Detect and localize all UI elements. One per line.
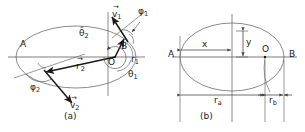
label-phi2: φ2 [30, 83, 40, 93]
label-apoapsis-b: A [168, 50, 174, 59]
vector-arrow-v1-icon: → [113, 4, 119, 11]
velocity-vector-v2 [44, 70, 72, 103]
label-phi1-subscript: 1 [144, 10, 148, 18]
label-radius-rb: rb [269, 96, 277, 106]
label-velocity-v2: → v2 [70, 101, 79, 111]
label-theta2-subscript: 2 [85, 32, 89, 40]
label-phi1: φ1 [138, 7, 148, 17]
vector-arrow-v2-icon: → [71, 95, 77, 102]
label-velocity-v1: → v1 [112, 10, 121, 20]
label-theta2: θ̂2 [79, 29, 89, 39]
label-radius-r1: r1 [131, 55, 139, 65]
figure-two-panel-orbit-geometry: A B O r1 → r2 → v1 → v2 θ1 θ̂2 φ1 φ2 (a) [0, 0, 305, 132]
focus-point-b [264, 56, 266, 58]
label-focus-a: O [108, 58, 115, 67]
label-apoapsis-a: A [20, 40, 26, 49]
figure-vector-graphics [0, 0, 305, 132]
label-y-offset: y [246, 38, 251, 47]
angle-arc-phi1-leader [132, 22, 140, 32]
label-periapsis-b: B [289, 50, 295, 59]
label-theta1: θ1 [128, 70, 138, 80]
panel-b-graphics [172, 14, 297, 122]
caption-panel-a: (a) [64, 112, 77, 121]
label-x-offset: x [202, 40, 207, 49]
label-radius-rb-subscript: b [273, 99, 277, 107]
label-phi2-subscript: 2 [36, 86, 40, 94]
label-radius-r2: → r2 [76, 62, 85, 72]
label-focus-b: O [262, 45, 269, 54]
label-radius-ra: ra [214, 96, 222, 106]
label-radius-ra-subscript: a [218, 99, 222, 107]
caption-panel-b: (b) [200, 112, 213, 121]
vector-arrow-r2-icon: → [77, 56, 83, 63]
velocity-vector-v1 [112, 17, 128, 42]
label-velocity-v1-subscript: 1 [117, 13, 121, 21]
label-radius-r2-subscript: 2 [81, 65, 85, 73]
label-radius-r1-subscript: 1 [135, 58, 139, 66]
label-periapsis-a: B [121, 42, 127, 51]
label-theta1-subscript: 1 [134, 73, 138, 81]
